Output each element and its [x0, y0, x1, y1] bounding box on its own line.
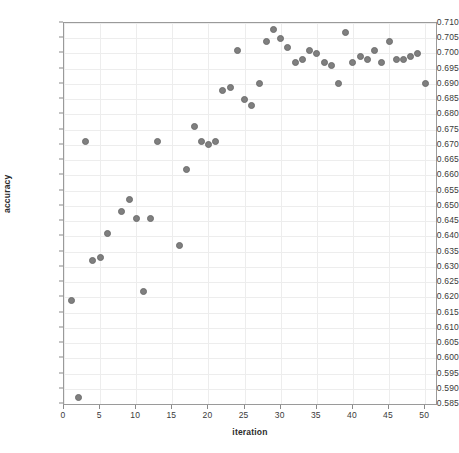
- data-point: [248, 102, 255, 109]
- data-point: [335, 80, 342, 87]
- y-axis-tick-mark: [59, 52, 63, 53]
- data-point: [97, 254, 104, 261]
- gridline-horizontal: [64, 114, 436, 115]
- data-point: [364, 56, 371, 63]
- y-axis-tick-mark: [59, 98, 63, 99]
- data-point: [219, 87, 226, 94]
- y-axis-tick-mark: [59, 189, 63, 190]
- data-point: [313, 50, 320, 57]
- y-axis-tick-label: 0.655: [401, 185, 459, 195]
- y-axis-tick-label: 0.685: [401, 93, 459, 103]
- scatter-chart-figure: 0.5850.5900.5950.6000.6050.6100.6150.620…: [0, 0, 459, 453]
- x-axis-tick-label: 25: [224, 410, 264, 420]
- data-point: [234, 47, 241, 54]
- y-axis-tick-label: 0.625: [401, 276, 459, 286]
- gridline-vertical: [100, 23, 101, 404]
- gridline-horizontal: [64, 404, 436, 405]
- data-point: [284, 44, 291, 51]
- gridline-horizontal: [64, 221, 436, 222]
- gridline-horizontal: [64, 328, 436, 329]
- data-point: [393, 56, 400, 63]
- x-axis-tick-mark: [424, 405, 425, 409]
- y-axis-tick-mark: [59, 37, 63, 38]
- x-axis-tick-mark: [171, 405, 172, 409]
- x-axis-tick-mark: [63, 405, 64, 409]
- x-axis-tick-mark: [352, 405, 353, 409]
- gridline-vertical: [353, 23, 354, 404]
- y-axis-tick-label: 0.605: [401, 337, 459, 347]
- y-axis-tick-mark: [59, 113, 63, 114]
- gridline-vertical: [245, 23, 246, 404]
- data-point: [263, 38, 270, 45]
- data-point: [349, 59, 356, 66]
- y-axis-tick-label: 0.705: [401, 32, 459, 42]
- y-axis-tick-mark: [59, 67, 63, 68]
- data-point: [147, 215, 154, 222]
- data-point: [241, 96, 248, 103]
- gridline-vertical: [136, 23, 137, 404]
- y-axis-tick-mark: [59, 174, 63, 175]
- gridline-horizontal: [64, 236, 436, 237]
- y-axis-tick-mark: [59, 326, 63, 327]
- y-axis-tick-label: 0.595: [401, 368, 459, 378]
- y-axis-tick-label: 0.690: [401, 78, 459, 88]
- data-point: [140, 288, 147, 295]
- data-point: [227, 84, 234, 91]
- y-axis-tick-mark: [59, 387, 63, 388]
- gridline-horizontal: [64, 99, 436, 100]
- x-axis-tick-mark: [99, 405, 100, 409]
- data-point: [277, 35, 284, 42]
- gridline-horizontal: [64, 53, 436, 54]
- y-axis-tick-label: 0.660: [401, 169, 459, 179]
- gridline-horizontal: [64, 297, 436, 298]
- gridline-horizontal: [64, 145, 436, 146]
- x-axis-tick-mark: [135, 405, 136, 409]
- data-point: [191, 123, 198, 130]
- y-axis-tick-label: 0.680: [401, 108, 459, 118]
- y-axis-tick-mark: [59, 311, 63, 312]
- y-axis-tick-mark: [59, 403, 63, 404]
- x-axis-tick-mark: [388, 405, 389, 409]
- data-point: [104, 230, 111, 237]
- data-point: [118, 208, 125, 215]
- y-axis-tick-mark: [59, 265, 63, 266]
- gridline-vertical: [208, 23, 209, 404]
- y-axis-tick-label: 0.645: [401, 215, 459, 225]
- y-axis-tick-mark: [59, 372, 63, 373]
- y-axis-tick-label: 0.650: [401, 200, 459, 210]
- gridline-horizontal: [64, 374, 436, 375]
- data-point: [176, 242, 183, 249]
- data-point: [321, 59, 328, 66]
- data-point: [299, 56, 306, 63]
- y-axis-tick-mark: [59, 357, 63, 358]
- gridline-horizontal: [64, 69, 436, 70]
- y-axis-tick-label: 0.670: [401, 139, 459, 149]
- y-axis-tick-label: 0.710: [401, 17, 459, 27]
- data-point: [256, 80, 263, 87]
- y-axis-tick-label: 0.695: [401, 63, 459, 73]
- gridline-horizontal: [64, 313, 436, 314]
- y-axis-tick-mark: [59, 128, 63, 129]
- x-axis-tick-label: 5: [79, 410, 119, 420]
- data-point: [328, 62, 335, 69]
- gridline-vertical: [317, 23, 318, 404]
- data-point: [183, 166, 190, 173]
- y-axis-tick-mark: [59, 159, 63, 160]
- data-point: [89, 257, 96, 264]
- x-axis-tick-mark: [207, 405, 208, 409]
- gridline-horizontal: [64, 267, 436, 268]
- gridline-vertical: [389, 23, 390, 404]
- y-axis-tick-label: 0.630: [401, 261, 459, 271]
- y-axis-tick-label: 0.700: [401, 47, 459, 57]
- y-axis-tick-label: 0.600: [401, 352, 459, 362]
- y-axis-tick-mark: [59, 342, 63, 343]
- gridline-horizontal: [64, 160, 436, 161]
- gridline-horizontal: [64, 175, 436, 176]
- gridline-horizontal: [64, 282, 436, 283]
- y-axis-tick-label: 0.590: [401, 383, 459, 393]
- data-point: [270, 26, 277, 33]
- y-axis-tick-mark: [59, 281, 63, 282]
- y-axis-tick-label: 0.640: [401, 230, 459, 240]
- y-axis-tick-mark: [59, 296, 63, 297]
- gridline-horizontal: [64, 23, 436, 24]
